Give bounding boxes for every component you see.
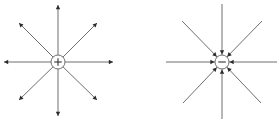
arrowhead-icon	[56, 112, 60, 116]
field-line-up-right	[63, 23, 97, 57]
field-line-up-left	[19, 23, 53, 57]
field-line-down-right	[63, 67, 97, 100]
arrowhead-icon	[210, 60, 214, 64]
field-line-down-right	[227, 67, 261, 103]
arrowhead-icon	[220, 70, 224, 74]
negative-charge-field	[166, 4, 277, 119]
field-line-up-left	[182, 21, 217, 57]
positive-charge-field	[4, 5, 113, 116]
arrowhead-icon	[56, 5, 60, 9]
field-lines-diagram	[0, 0, 279, 125]
arrowhead-icon	[220, 50, 224, 54]
arrowhead-icon	[109, 60, 113, 64]
arrowhead-icon	[4, 60, 8, 64]
field-line-down-left	[19, 67, 53, 100]
field-line-up-right	[227, 21, 262, 57]
arrowhead-icon	[230, 60, 234, 64]
field-line-down-left	[183, 67, 217, 103]
